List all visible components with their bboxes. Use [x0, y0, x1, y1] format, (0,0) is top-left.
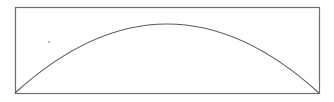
- parabolic-arc: [15, 24, 319, 93]
- frame-rectangle: [16, 8, 320, 94]
- point-marker: [48, 41, 50, 43]
- diagram-canvas: [0, 0, 334, 102]
